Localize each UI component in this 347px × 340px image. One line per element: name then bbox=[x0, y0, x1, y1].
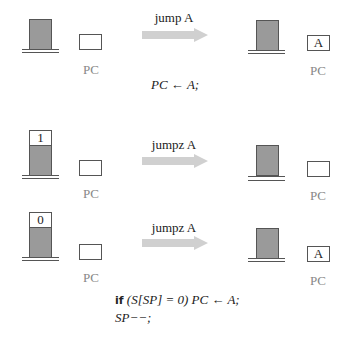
pc-label: PC bbox=[303, 63, 333, 79]
pc-label: PC bbox=[303, 188, 333, 204]
semantics-code-line-2: SP−−; bbox=[115, 310, 151, 326]
stack-base-line bbox=[22, 52, 59, 53]
stack-after bbox=[256, 20, 279, 51]
stack-after bbox=[256, 228, 279, 259]
transition-arrow-icon bbox=[142, 236, 208, 250]
stack-top-cell: 1 bbox=[29, 130, 52, 146]
stack-before bbox=[29, 227, 52, 258]
transition-arrow-icon bbox=[142, 154, 208, 168]
pc-label: PC bbox=[303, 273, 333, 289]
stack-top-cell: 0 bbox=[29, 212, 52, 228]
pc-register-before bbox=[79, 244, 102, 260]
stack-base-line bbox=[248, 261, 285, 262]
stack-base-line bbox=[22, 49, 59, 50]
semantics-code-line-1: if (S[SP] = 0) PC ← A; bbox=[115, 292, 240, 308]
condition-text: (S[SP] = 0) PC ← A; bbox=[124, 292, 240, 307]
instruction-label: jump A bbox=[134, 10, 214, 26]
stack-base-line bbox=[22, 178, 59, 179]
stack-base-line bbox=[248, 180, 285, 181]
stack-base-line bbox=[22, 175, 59, 176]
stack-base-line bbox=[248, 176, 285, 177]
stack-base-line bbox=[22, 260, 59, 261]
pc-register-after: A bbox=[307, 246, 330, 262]
transition-arrow-icon bbox=[142, 28, 208, 42]
pc-register-before bbox=[79, 160, 102, 176]
pc-label: PC bbox=[76, 62, 106, 78]
pc-register-after bbox=[307, 161, 330, 177]
stack-after bbox=[256, 145, 279, 176]
semantics-code: PC ← A; bbox=[151, 77, 199, 93]
instruction-label: jumpz A bbox=[134, 220, 214, 236]
stack-base-line bbox=[248, 50, 285, 51]
stack-base-line bbox=[248, 258, 285, 259]
pc-register-before bbox=[79, 34, 102, 50]
stack-before bbox=[29, 145, 52, 176]
pc-register-after: A bbox=[307, 35, 330, 51]
stack-base-line bbox=[248, 53, 285, 54]
if-keyword: if bbox=[115, 294, 124, 307]
pc-label: PC bbox=[76, 186, 106, 202]
stack-base-line bbox=[22, 257, 59, 258]
instruction-label: jumpz A bbox=[134, 137, 214, 153]
stack-before bbox=[29, 19, 52, 50]
pc-label: PC bbox=[76, 270, 106, 286]
